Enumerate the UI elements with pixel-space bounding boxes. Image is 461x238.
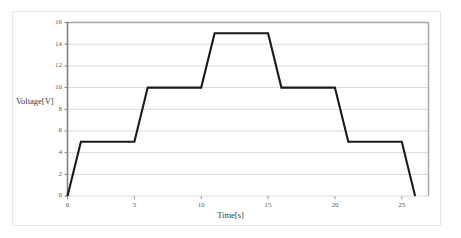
- y-tick-label-0: 0: [40, 191, 62, 199]
- y-tick-label-8: 8: [40, 105, 62, 113]
- chart-figure: 16 14 12 10 8 6 4 2 0 0 5 10 15 20 25 Vo…: [0, 0, 461, 238]
- y-tick-label-14: 14: [40, 40, 62, 48]
- horizontal-gridlines: [68, 23, 429, 197]
- y-axis-title: Voltage[V]: [16, 96, 54, 106]
- x-tick-label-0: 0: [58, 201, 78, 209]
- x-tick-label-10: 10: [191, 201, 211, 209]
- voltage-data-line: [68, 33, 416, 196]
- y-tick-label-6: 6: [40, 126, 62, 134]
- y-tick-label-4: 4: [40, 148, 62, 156]
- x-tick-label-5: 5: [124, 201, 144, 209]
- x-tick-label-25: 25: [392, 201, 412, 209]
- y-tick-label-10: 10: [40, 83, 62, 91]
- x-axis-title: Time[s]: [0, 210, 461, 220]
- x-tick-label-15: 15: [258, 201, 278, 209]
- y-tick-label-12: 12: [40, 61, 62, 69]
- y-tick-label-2: 2: [40, 170, 62, 178]
- y-tick-label-16: 16: [40, 18, 62, 26]
- x-tick-label-20: 20: [325, 201, 345, 209]
